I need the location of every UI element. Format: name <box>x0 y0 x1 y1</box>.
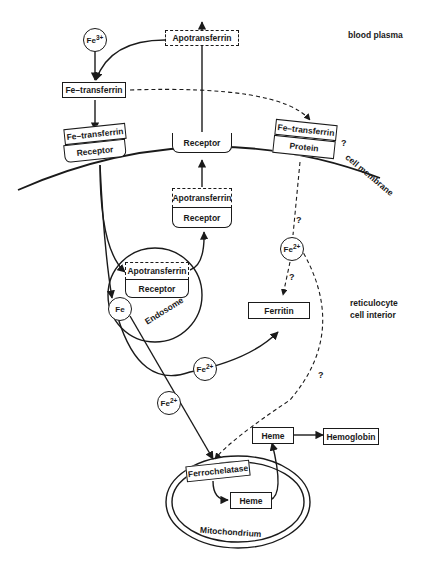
fe2-ion-middle: Fe2+ <box>193 357 217 381</box>
apotransferrin-plasma: Apotransferrin <box>165 30 239 46</box>
question-mark-membrane: ? <box>341 138 347 148</box>
hemoglobin: Hemoglobin <box>323 428 379 445</box>
interior-label-1: reticulocyte <box>350 298 398 308</box>
fe-ion-endosome: Fe <box>108 297 132 321</box>
question-mark-ferritin: ? <box>289 272 295 282</box>
membrane-receptor-middle: Receptor <box>172 133 232 153</box>
fe3-ion: Fe3+ <box>83 28 107 52</box>
blood-plasma-label: blood plasma <box>348 30 403 40</box>
heme-outer: Heme <box>252 427 294 444</box>
endosome-apotransferrin: Apotransferrin <box>125 262 189 280</box>
interior-label-2: cell interior <box>350 310 396 320</box>
ferritin: Ferritin <box>248 302 310 319</box>
recycle-receptor: Receptor <box>172 208 232 228</box>
recycle-apotransferrin: Apotransferrin <box>172 188 232 208</box>
fe-transferrin-plasma: Fe–transferrin <box>62 82 126 98</box>
recycle-complex: Apotransferrin Receptor <box>172 188 232 228</box>
fe2-ion-top: Fe2+ <box>280 237 304 261</box>
heme-inner: Heme <box>230 492 272 509</box>
question-mark-mitochondrion: ? <box>318 370 324 380</box>
endosome-complex: Apotransferrin Receptor <box>125 262 189 298</box>
question-mark-protein: ? <box>296 215 302 225</box>
fe2-ion-lower: Fe2+ <box>157 391 181 415</box>
